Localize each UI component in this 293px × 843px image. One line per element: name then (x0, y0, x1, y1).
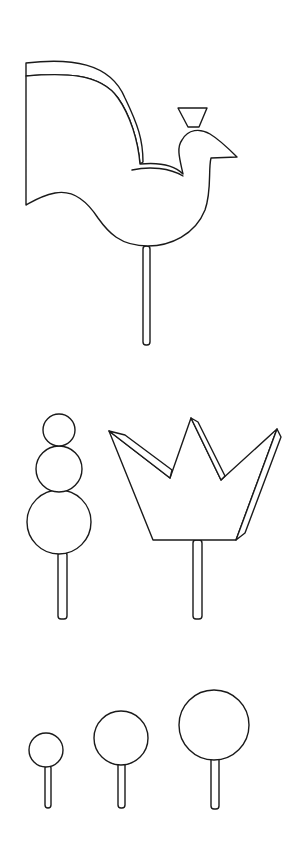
illustration (0, 0, 293, 843)
medium-circle (94, 711, 148, 765)
crown-stick (193, 540, 202, 619)
large-stick (211, 757, 219, 809)
large-circle-on-stick (179, 690, 249, 809)
stacked-stick (58, 552, 67, 619)
bird-on-stick (26, 61, 237, 345)
small-circle (29, 733, 63, 767)
small-stick (45, 765, 51, 808)
small-circle-on-stick (29, 733, 63, 808)
bird-crest (178, 108, 207, 127)
stacked-circle-medium (36, 446, 82, 492)
medium-stick (118, 762, 125, 808)
stacked-circle-large (27, 490, 91, 554)
crown-shape (109, 418, 277, 540)
bird-stick (143, 246, 150, 345)
bird-body (26, 74, 237, 246)
medium-circle-on-stick (94, 711, 148, 808)
stacked-circles-on-stick (27, 414, 91, 619)
stacked-circle-small (43, 414, 75, 446)
large-circle (179, 690, 249, 760)
crown-on-stick (109, 418, 281, 619)
